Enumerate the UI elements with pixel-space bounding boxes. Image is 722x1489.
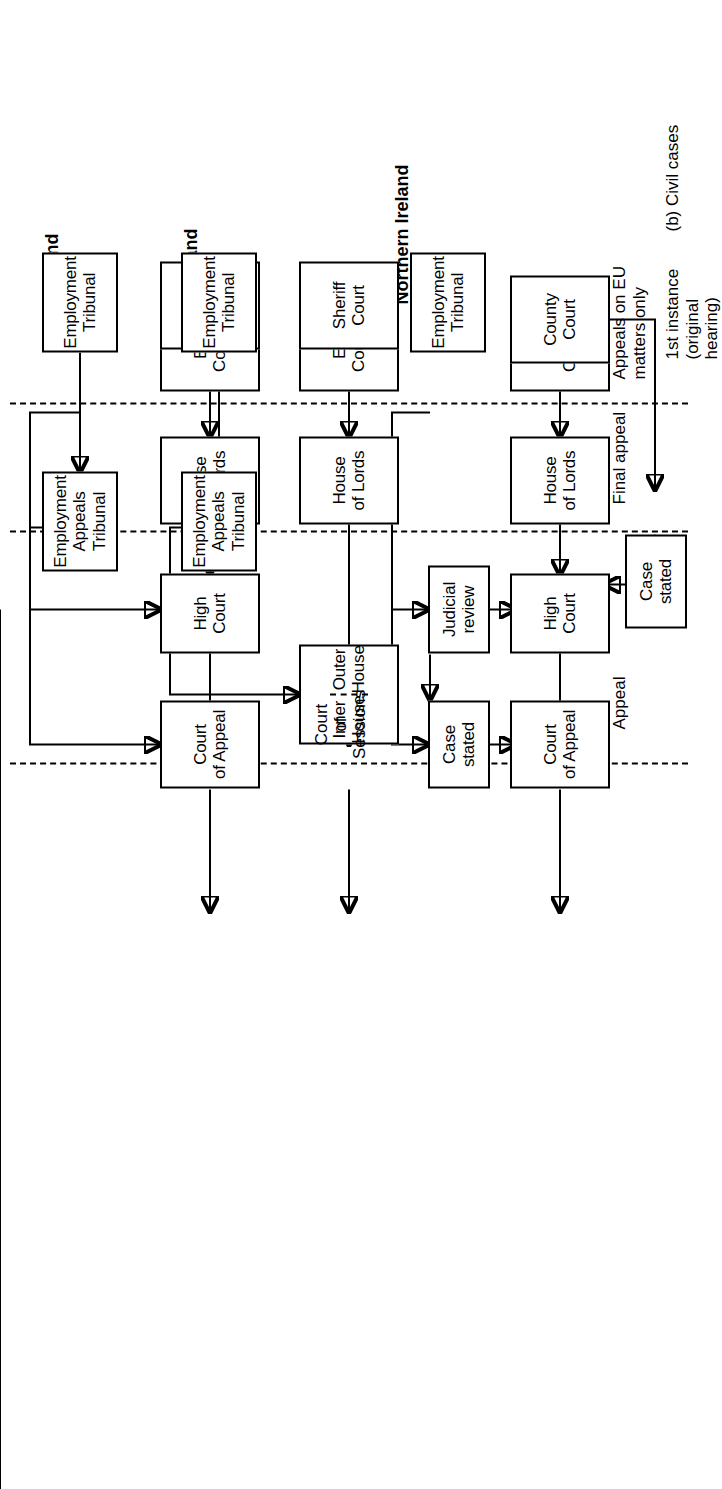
node-scotland-employment-appeals-tribunal[interactable]: Employment Appeals Tribunal xyxy=(181,471,257,571)
node-ni-case-stated-upper[interactable]: Case stated xyxy=(428,700,490,788)
node-label: Employment Tribunal xyxy=(429,256,467,348)
node-label: High Court xyxy=(191,593,229,634)
node-ni-employment-tribunal[interactable]: Employment Tribunal xyxy=(410,252,486,352)
node-label: House of Lords xyxy=(541,450,579,510)
node-label: House of Lords xyxy=(330,450,368,510)
node-label: Employment Tribunal xyxy=(61,256,99,348)
node-england-employment-tribunal[interactable]: Employment Tribunal xyxy=(42,252,118,352)
node-ni-high-court[interactable]: High Court xyxy=(510,573,610,653)
node-scotland-house-of-lords[interactable]: House of Lords xyxy=(299,436,399,524)
figure-caption: (b) Civil cases xyxy=(663,124,683,231)
node-label: Employment Appeals Tribunal xyxy=(190,475,247,567)
node-ni-court-of-appeal[interactable]: Court of Appeal xyxy=(510,700,610,788)
node-label: Judicial review xyxy=(440,581,478,636)
node-label: Sheriff Court xyxy=(330,281,368,328)
node-label: County Court xyxy=(541,293,579,346)
node-ni-county-court[interactable]: County Court xyxy=(510,275,610,363)
node-label: Case stated xyxy=(637,558,675,603)
node-england-high-court[interactable]: High Court xyxy=(160,573,260,653)
node-ni-judicial-review[interactable]: Judicial review xyxy=(428,565,490,653)
node-ni-house-of-lords[interactable]: House of Lords xyxy=(510,436,610,524)
node-label: Court of Appeal xyxy=(191,709,229,778)
tier-divider-eu xyxy=(10,402,688,404)
node-label: Court of Appeal xyxy=(541,709,579,778)
node-england-court-of-appeal[interactable]: Court of Appeal xyxy=(160,700,260,788)
node-england-employment-appeals-tribunal[interactable]: Employment Appeals Tribunal xyxy=(42,471,118,571)
node-scotland-sheriff-court[interactable]: Sheriff Court xyxy=(299,261,399,349)
node-scotland-court-of-sessions-label: Court of Sessions xyxy=(312,674,369,774)
node-label: Employment Tribunal xyxy=(200,256,238,348)
node-ni-case-stated-lower[interactable]: Case stated xyxy=(625,534,687,628)
node-scotland-employment-tribunal[interactable]: Employment Tribunal xyxy=(181,252,257,352)
tier-label-final-appeal: Final appeal xyxy=(610,324,630,504)
node-label: Case stated xyxy=(440,721,478,766)
node-label: Employment Appeals Tribunal xyxy=(51,475,108,567)
node-label: High Court xyxy=(541,593,579,634)
